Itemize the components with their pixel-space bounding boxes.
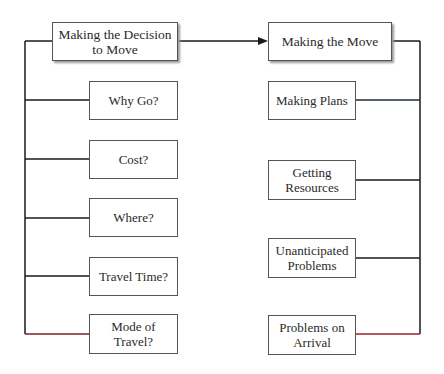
box-label-line2: Resources <box>285 180 338 195</box>
box-label-line1: Making the Move <box>282 34 379 49</box>
box-label-line2: Travel? <box>111 334 155 349</box>
box-label-line2: Arrival <box>279 335 344 350</box>
decision-to-move-box: Making the Decision to Move <box>52 22 178 61</box>
box-label-line2: Problems <box>276 258 349 273</box>
cost-box: Cost? <box>89 140 178 179</box>
box-label-line1: Travel Time? <box>99 269 168 284</box>
box-label-line1: Where? <box>113 210 153 225</box>
box-label-line1: Getting <box>285 165 338 180</box>
mode-of-travel-box: Mode of Travel? <box>89 314 178 354</box>
why-go-box: Why Go? <box>89 81 178 120</box>
travel-time-box: Travel Time? <box>89 257 178 296</box>
box-label-line1: Mode of <box>111 319 155 334</box>
box-label-line1: Unanticipated <box>276 243 349 258</box>
where-box: Where? <box>89 198 178 237</box>
box-label-line2: to Move <box>58 42 171 57</box>
making-plans-box: Making Plans <box>268 81 356 120</box>
box-label-line1: Making Plans <box>276 93 348 108</box>
box-label-line1: Making the Decision <box>58 27 171 42</box>
box-label-line1: Why Go? <box>108 93 158 108</box>
getting-resources-box: Getting Resources <box>268 160 356 200</box>
problems-on-arrival-box: Problems on Arrival <box>268 315 356 355</box>
unanticipated-problems-box: Unanticipated Problems <box>268 238 356 278</box>
box-label-line1: Problems on <box>279 320 344 335</box>
arrow-head-icon <box>258 37 268 45</box>
making-the-move-box: Making the Move <box>268 22 392 61</box>
box-label-line1: Cost? <box>119 152 149 167</box>
